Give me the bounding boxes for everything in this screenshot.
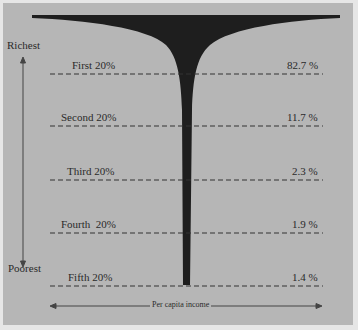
quintile-label: Fifth 20% <box>68 271 112 283</box>
quintile-label: Third 20% <box>67 165 114 177</box>
quintile-label: Fourth 20% <box>61 218 116 230</box>
quintile-share: 82.7 % <box>287 59 318 71</box>
quintile-share: 1.9 % <box>292 218 318 230</box>
quintile-share: 2.3 % <box>292 165 318 177</box>
income-distribution-shape <box>32 15 340 285</box>
poorest-label: Poorest <box>8 262 41 274</box>
quintile-share: 1.4 % <box>292 271 318 283</box>
richest-label: Richest <box>7 39 40 51</box>
quintile-label: First 20% <box>72 59 115 71</box>
richest-poorest-arrow <box>21 57 26 267</box>
quintile-share: 11.7 % <box>287 111 318 123</box>
x-axis-label: Per capita income <box>150 300 211 309</box>
quintile-label: Second 20% <box>61 111 116 123</box>
